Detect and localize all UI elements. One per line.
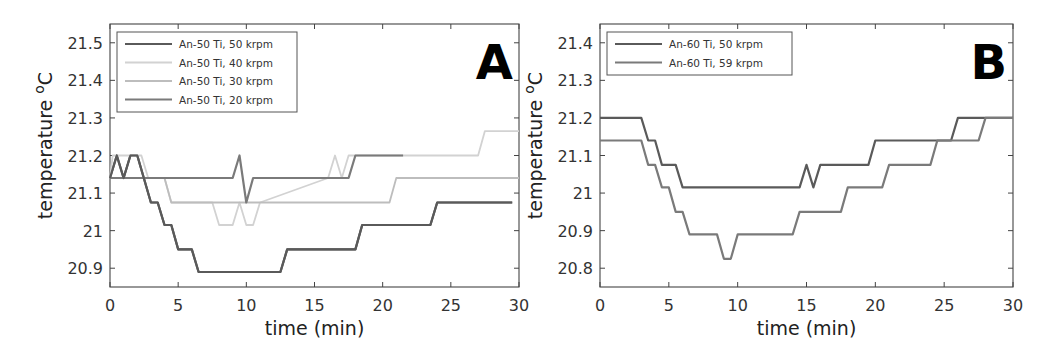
x-tick-label: 25: [441, 296, 461, 315]
legend-label: An-50 Ti, 40 krpm: [179, 57, 273, 69]
x-tick-label: 10: [727, 296, 747, 315]
y-tick-label: 21.2: [67, 147, 103, 166]
y-axis-title: temperature oC: [521, 72, 546, 219]
x-tick-label: 20: [865, 296, 885, 315]
legend: An-50 Ti, 50 krpmAn-50 Ti, 40 krpmAn-50 …: [117, 32, 297, 112]
legend-label: An-50 Ti, 30 krpm: [179, 75, 273, 87]
legend-label: An-50 Ti, 20 krpm: [179, 94, 273, 106]
y-tick-label: 21.2: [557, 109, 593, 128]
x-tick-label: 0: [105, 296, 115, 315]
y-tick-label: 21.4: [557, 34, 593, 53]
legend: An-60 Ti, 50 krpmAn-60 Ti, 59 krpm: [607, 32, 792, 75]
y-axis-title: temperature oC: [31, 72, 56, 219]
y-tick-label: 20.8: [557, 259, 593, 278]
y-tick-label: 20.9: [557, 222, 593, 241]
degree-symbol: o: [31, 85, 47, 94]
legend-label: An-60 Ti, 59 krpm: [669, 57, 763, 69]
y-tick-label: 21: [573, 184, 593, 203]
chart-b-svg: 05101520253020.820.92121.121.221.321.4ti…: [490, 0, 1061, 355]
y-tick-label: 21.3: [67, 109, 103, 128]
x-axis-title: time (min): [265, 317, 365, 339]
y-tick-label: 21.3: [557, 71, 593, 90]
x-tick-label: 10: [236, 296, 256, 315]
x-tick-label: 15: [796, 296, 816, 315]
x-axis-title: time (min): [757, 317, 857, 339]
y-tick-label: 21: [83, 222, 103, 241]
chart-panel-a: 05101520253020.92121.121.221.321.421.5ti…: [0, 0, 530, 355]
unit-c: C: [524, 72, 546, 85]
x-tick-label: 5: [173, 296, 183, 315]
y-tick-label: 21.1: [67, 184, 103, 203]
panel-letter-b: B: [970, 34, 1007, 90]
y-axis-title-text: temperature: [524, 94, 546, 219]
x-tick-label: 20: [372, 296, 392, 315]
chart-panel-b: 05101520253020.820.92121.121.221.321.4ti…: [490, 0, 1020, 355]
degree-symbol: o: [521, 85, 537, 94]
legend-label: An-50 Ti, 50 krpm: [179, 38, 273, 50]
x-tick-label: 15: [304, 296, 324, 315]
y-axis-title-text: temperature: [34, 94, 56, 219]
x-tick-label: 25: [934, 296, 954, 315]
x-tick-label: 0: [595, 296, 605, 315]
y-tick-label: 21.1: [557, 147, 593, 166]
chart-a-svg: 05101520253020.92121.121.221.321.421.5ti…: [0, 0, 530, 355]
y-tick-label: 21.4: [67, 71, 103, 90]
legend-label: An-60 Ti, 50 krpm: [669, 38, 763, 50]
y-tick-label: 20.9: [67, 259, 103, 278]
x-tick-label: 30: [1003, 296, 1023, 315]
y-tick-label: 21.5: [67, 34, 103, 53]
unit-c: C: [34, 72, 56, 85]
x-tick-label: 5: [664, 296, 674, 315]
